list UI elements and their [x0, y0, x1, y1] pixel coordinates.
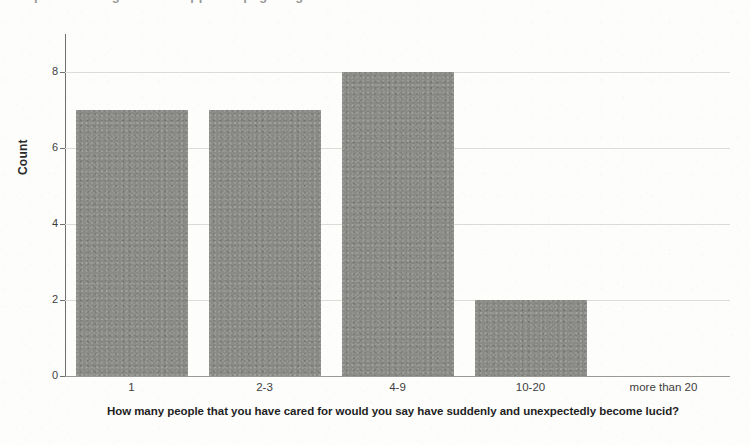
bar[interactable]	[209, 110, 321, 376]
y-tick-mark	[60, 148, 65, 149]
x-axis-tick-labels: 12-34-910-20more than 20	[65, 381, 730, 401]
x-tick-label: 10-20	[464, 381, 597, 393]
x-tick-label: more than 20	[597, 381, 730, 393]
clipped-title-strip: published figure title clipped at page e…	[0, 0, 750, 9]
x-tick-label: 1	[65, 381, 198, 393]
y-tick-mark	[60, 376, 65, 377]
y-tick-label: 0	[18, 369, 58, 381]
y-tick-mark	[60, 300, 65, 301]
y-tick-mark	[60, 72, 65, 73]
x-axis-caption-line-2: lucid?	[646, 405, 680, 417]
y-tick-label: 4	[18, 217, 58, 229]
x-axis-caption-line-1: How many people that you have cared for …	[107, 405, 642, 417]
x-tick-label: 4-9	[331, 381, 464, 393]
y-tick-mark	[60, 224, 65, 225]
gridline	[65, 376, 730, 377]
bar-chart-figure: published figure title clipped at page e…	[0, 0, 750, 445]
y-axis-title: Count	[16, 139, 30, 175]
bar[interactable]	[475, 300, 587, 376]
y-tick-label: 8	[18, 65, 58, 77]
x-tick-label: 2-3	[198, 381, 331, 393]
x-axis-caption: How many people that you have cared for …	[62, 404, 724, 419]
bar[interactable]	[342, 72, 454, 376]
clipped-title-text: published figure title clipped at page e…	[34, 0, 311, 3]
bar[interactable]	[76, 110, 188, 376]
plot-area	[65, 34, 730, 376]
y-tick-label: 2	[18, 293, 58, 305]
y-axis-tick-labels: 02468	[8, 34, 58, 377]
